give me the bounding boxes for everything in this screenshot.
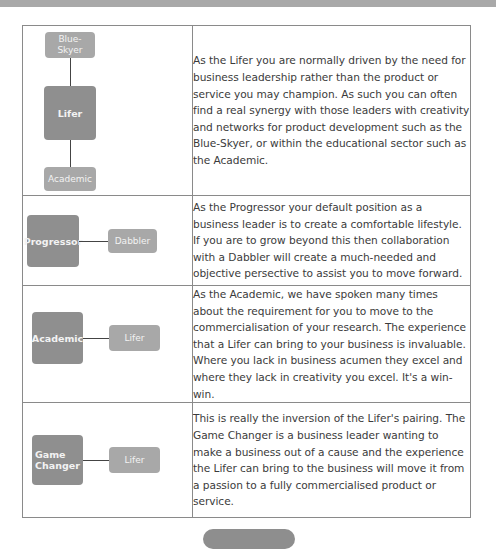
- box-lifer: Lifer: [44, 86, 96, 140]
- box-blue-skyer: Blue- Skyer: [45, 32, 95, 58]
- table-row: Game Changer Lifer This is really the in…: [23, 403, 471, 518]
- top-edge-bar: [0, 0, 496, 7]
- box-lifer-partner: Lifer: [109, 447, 160, 473]
- description-game-changer: This is really the inversion of the Life…: [193, 403, 471, 518]
- diagram-cell-lifer: Blue- Skyer Lifer Academic: [23, 26, 193, 196]
- box-game-changer: Game Changer: [32, 435, 83, 485]
- box-progressor: Progressor: [27, 215, 79, 267]
- box-academic-main: Academic: [32, 312, 83, 364]
- box-lifer-partner: Lifer: [109, 325, 160, 351]
- diagram-cell-academic: Academic Lifer: [23, 286, 193, 403]
- table-row: Academic Lifer As the Academic, we have …: [23, 286, 471, 403]
- connector-line: [83, 338, 109, 339]
- description-lifer: As the Lifer you are normally driven by …: [193, 26, 471, 196]
- table-row: Progressor Dabbler As the Progressor you…: [23, 196, 471, 286]
- diagram-cell-game-changer: Game Changer Lifer: [23, 403, 193, 518]
- box-academic: Academic: [44, 167, 96, 191]
- table-row: Blue- Skyer Lifer Academic As the Lifer …: [23, 26, 471, 196]
- pairing-table: Blue- Skyer Lifer Academic As the Lifer …: [22, 25, 471, 518]
- diagram-cell-progressor: Progressor Dabbler: [23, 196, 193, 286]
- description-academic: As the Academic, we have spoken many tim…: [193, 286, 471, 403]
- connector-line: [70, 58, 71, 86]
- box-dabbler: Dabbler: [108, 229, 157, 253]
- page-indicator-tab: [203, 529, 295, 549]
- connector-line: [70, 140, 71, 167]
- connector-line: [83, 460, 109, 461]
- description-progressor: As the Progressor your default position …: [193, 196, 471, 286]
- connector-line: [79, 241, 108, 242]
